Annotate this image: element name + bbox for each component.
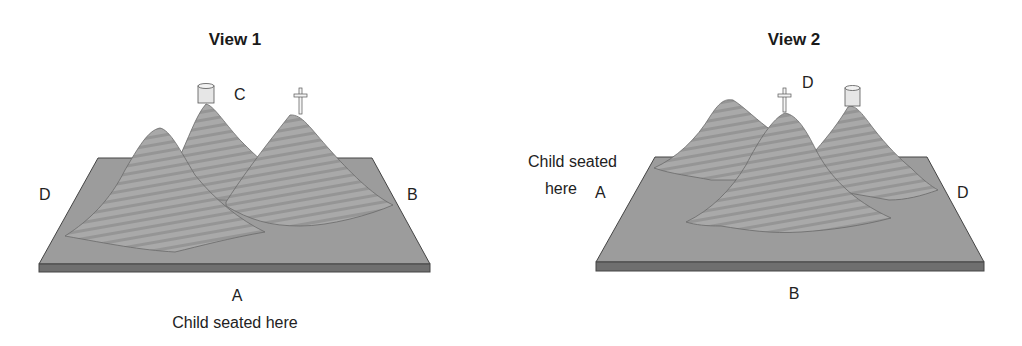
view-2-panel: View 2 D Child seated here A D B (511, 0, 1022, 346)
view-1-mountains-illustration (0, 0, 511, 346)
view-2-label-right: D (957, 184, 969, 202)
view-1-panel: View 1 C D B A Child seated here (0, 0, 511, 346)
view-1-label-near: A (232, 287, 243, 305)
view-2-label-near: B (789, 285, 800, 303)
view-1-observer-caption: Child seated here (172, 314, 297, 332)
view-2-observer-caption-line1: Child seated (481, 153, 617, 171)
board-edge (39, 264, 430, 272)
view-1-title: View 1 (209, 30, 262, 50)
view-2-observer-caption-line2: here (481, 180, 577, 198)
cross-icon (778, 88, 791, 112)
view-2-mountains-illustration (511, 0, 1022, 346)
cylinder-icon (845, 86, 860, 107)
view-1-label-left: D (39, 186, 51, 204)
cylinder-icon (198, 84, 214, 104)
view-1-label-right: B (407, 186, 418, 204)
view-2-label-far: D (802, 74, 814, 92)
board-edge (596, 262, 984, 271)
view-2-label-left: A (595, 184, 606, 202)
cross-icon (294, 88, 307, 114)
view-2-title: View 2 (768, 30, 821, 50)
view-1-label-far: C (234, 86, 246, 104)
